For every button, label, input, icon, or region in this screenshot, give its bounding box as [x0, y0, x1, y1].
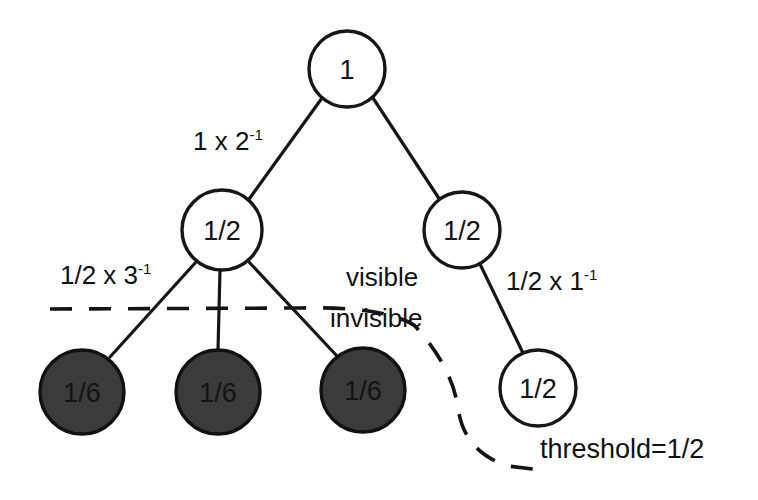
edge-label-root-to-left: 1 x 2-1 [193, 128, 263, 154]
node-left-branch-label: 1/2 [203, 216, 241, 246]
edge-label-right-to-bottom: 1/2 x 1-1 [506, 268, 597, 294]
node-right-branch[interactable]: 1/2 [424, 192, 500, 268]
node-leaf-three[interactable]: 1/6 [321, 348, 405, 432]
node-root[interactable]: 1 [309, 31, 385, 107]
node-left-branch[interactable]: 1/2 [182, 190, 262, 270]
region-label-invisible: invisible [330, 305, 423, 331]
edge-label-left-to-leaf-one-exponent: -1 [138, 260, 151, 277]
node-bottom-right-label: 1/2 [519, 374, 557, 404]
region-label-visible: visible [346, 264, 418, 290]
edge-label-left-to-leaf-one-base: 1/2 x 3 [60, 260, 138, 290]
edge-label-root-to-left-exponent: -1 [249, 126, 262, 143]
tree-graphic: 1 1/2 1/2 1/6 1/6 1/6 [0, 0, 758, 500]
node-bottom-right[interactable]: 1/2 [500, 350, 576, 426]
node-leaf-two[interactable]: 1/6 [176, 350, 260, 434]
node-group: 1 1/2 1/2 1/6 1/6 1/6 [40, 31, 576, 434]
node-root-label: 1 [339, 55, 354, 85]
edge-root-to-right-child [373, 98, 440, 200]
edge-label-right-to-bottom-exponent: -1 [584, 266, 597, 283]
edge-label-root-to-left-base: 1 x 2 [193, 126, 249, 156]
threshold-label: threshold=1/2 [540, 436, 704, 463]
node-leaf-one-label: 1/6 [63, 378, 101, 408]
node-leaf-one[interactable]: 1/6 [40, 350, 124, 434]
edge-label-left-to-leaf-one: 1/2 x 3-1 [60, 262, 151, 288]
node-right-branch-label: 1/2 [443, 216, 481, 246]
node-leaf-three-label: 1/6 [344, 376, 382, 406]
probability-tree-diagram: 1 1/2 1/2 1/6 1/6 1/6 [0, 0, 758, 500]
edge-label-right-to-bottom-base: 1/2 x 1 [506, 266, 584, 296]
node-leaf-two-label: 1/6 [199, 378, 237, 408]
